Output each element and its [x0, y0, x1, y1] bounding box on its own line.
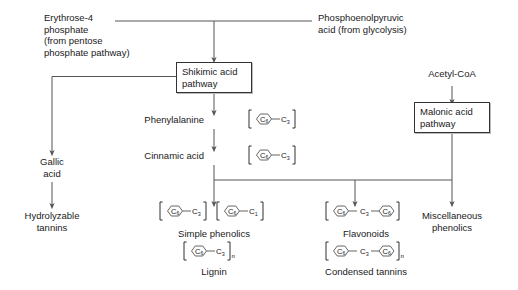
product-hydrolyzable-tannins: Hydrolyzable tannins — [25, 210, 80, 233]
caption-simple-phenolics: Simple phenolics — [178, 228, 250, 239]
svg-text:3: 3 — [366, 251, 369, 257]
input-erythrose-4-phosphate: Erythrose-4 phosphate (from pentose phos… — [44, 12, 130, 58]
caption-lignin: Lignin — [201, 266, 226, 277]
svg-text:6: 6 — [388, 250, 391, 256]
intermediate-gallic-acid: Gallic acid — [40, 156, 64, 179]
intermediate-phenylalanine: Phenylalanine — [144, 114, 204, 126]
svg-text:1: 1 — [255, 211, 258, 217]
intermediate-cinnamic-acid: Cinnamic acid — [144, 150, 204, 162]
caption-flavonoids: Flavonoids — [343, 228, 389, 239]
svg-text:3: 3 — [366, 211, 369, 217]
formula-simple-phenolics-c6c1: C6C1 — [215, 200, 271, 222]
formula-condensed-tannins: C6C3C6n — [324, 240, 416, 262]
svg-text:n: n — [401, 252, 405, 260]
svg-text:6: 6 — [343, 210, 346, 216]
formula-lignin: C6C3n — [182, 240, 246, 262]
svg-text:6: 6 — [266, 154, 269, 160]
svg-text:3: 3 — [287, 155, 290, 161]
pathway-box-malonic-acid[interactable]: Malonic acid pathway — [414, 102, 490, 133]
formula-phenylalanine: C6C3 — [247, 108, 303, 130]
formula-cinnamic-acid: C6C3 — [247, 144, 303, 166]
svg-text:n: n — [232, 252, 236, 260]
input-phosphoenolpyruvic-acid: Phosphoenolpyruvic acid (from glycolysis… — [318, 12, 407, 35]
svg-text:6: 6 — [266, 118, 269, 124]
svg-text:6: 6 — [234, 210, 237, 216]
svg-text:6: 6 — [177, 210, 180, 216]
svg-text:6: 6 — [201, 250, 204, 256]
formula-flavonoids: C6C3C6 — [324, 200, 408, 222]
formula-simple-phenolics-c6c3: C6C3 — [158, 200, 214, 222]
input-acetyl-coa: Acetyl-CoA — [428, 68, 476, 80]
svg-text:6: 6 — [388, 210, 391, 216]
svg-text:6: 6 — [343, 250, 346, 256]
svg-text:3: 3 — [198, 211, 201, 217]
svg-text:3: 3 — [222, 251, 225, 257]
pathway-box-shikimic-acid[interactable]: Shikimic acid pathway — [176, 62, 252, 93]
svg-text:3: 3 — [287, 119, 290, 125]
product-miscellaneous-phenolics: Miscellaneous phenolics — [422, 210, 482, 233]
caption-condensed-tannins: Condensed tannins — [325, 266, 407, 277]
